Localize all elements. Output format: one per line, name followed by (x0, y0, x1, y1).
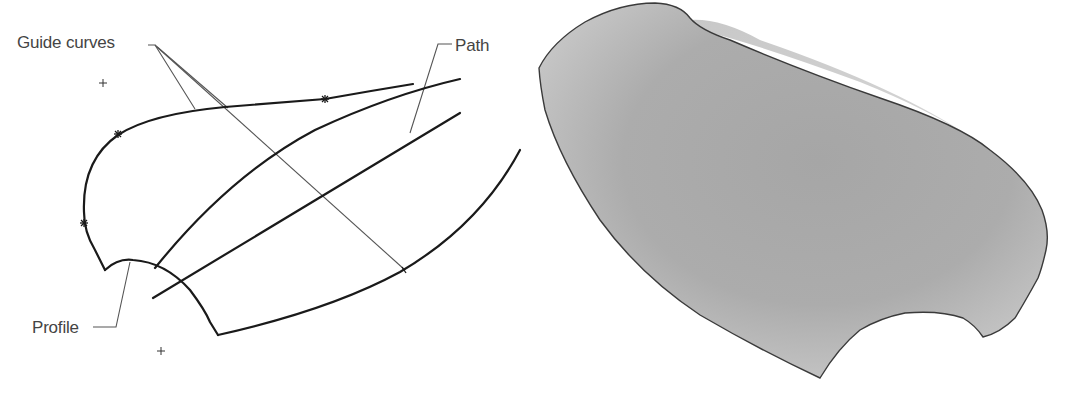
sweep-figure: Guide curves Path Profile (0, 0, 1082, 396)
swept-surface (539, 3, 1047, 378)
surface-panel (0, 0, 1082, 396)
